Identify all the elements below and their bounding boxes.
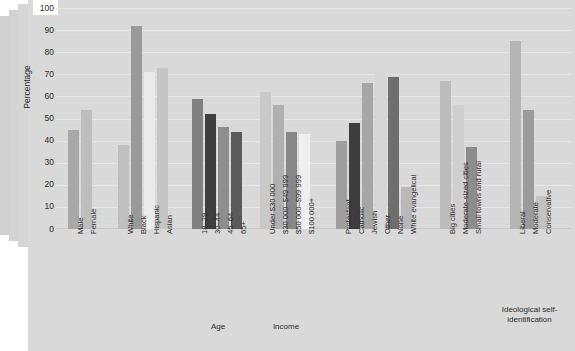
x-axis-tick-label: 30–44 — [214, 213, 222, 234]
x-axis-tick-label: Female — [90, 209, 98, 234]
x-axis-tick-label: Moderate-sized cities — [462, 162, 470, 234]
y-axis: 1009080706050403020100 — [30, 0, 54, 240]
x-axis-tick-label: Small towns and rural — [475, 161, 483, 234]
x-axis-group-label: Income — [241, 322, 331, 332]
x-axis-tick-label: Black — [140, 215, 148, 234]
x-axis-group-label: Ideological self- identification — [485, 305, 575, 325]
x-axis-tick-label: Other — [384, 215, 392, 234]
plot-area — [56, 8, 571, 229]
x-axis-tick-label: 65+ — [240, 221, 248, 234]
gridline-minor — [56, 21, 571, 22]
bar — [375, 72, 386, 229]
bar — [205, 114, 216, 229]
y-axis-tick-label: 30 — [45, 158, 54, 167]
y-axis-tick-label: 20 — [45, 180, 54, 189]
bar — [510, 41, 521, 229]
x-axis-tick-label: None — [397, 216, 405, 234]
x-axis-tick-label: Moderate — [532, 202, 540, 234]
bar — [68, 130, 79, 229]
x-axis-tick-label: Male — [77, 218, 85, 234]
x-axis-tick-label: Catholic — [358, 207, 366, 234]
x-axis-tick-label: $30 000–$49 999 — [282, 175, 290, 234]
bar — [131, 26, 142, 229]
y-axis-tick-label: 80 — [45, 48, 54, 57]
x-axis-tick-label: $100 000+ — [308, 198, 316, 234]
y-axis-tick-label: 90 — [45, 26, 54, 35]
gridline-minor — [56, 17, 571, 18]
y-axis-tick-label: 0 — [49, 225, 54, 234]
x-axis-tick-label: Under $30 000 — [269, 184, 277, 234]
y-axis-tick-label: 70 — [45, 70, 54, 79]
y-axis-tick-label: 40 — [45, 136, 54, 145]
chart-container: 1009080706050403020100 Percentage MaleFe… — [0, 0, 575, 351]
x-axis-tick-label: Asian — [166, 215, 174, 234]
bar — [192, 99, 203, 229]
x-axis-tick-label: Jewish — [371, 211, 379, 234]
y-axis-tick-label: 60 — [45, 92, 54, 101]
x-axis-tick-label: Conservative — [545, 190, 553, 234]
bar — [388, 77, 399, 229]
x-axis-tick-label: Hispanic — [153, 205, 161, 234]
y-axis-tick-label: 10 — [45, 202, 54, 211]
x-axis-tick-label: 45–64 — [227, 213, 235, 234]
y-axis-tick-label: 100 — [40, 4, 54, 13]
x-axis-tick-label: $50 000–$99 999 — [295, 175, 303, 234]
x-axis-tick-label: Protestant — [345, 199, 353, 234]
x-axis-tick-label: 18–29 — [201, 213, 209, 234]
x-axis-tick-label: White evangelical — [410, 174, 418, 234]
x-axis-tick-label: Big cities — [449, 204, 457, 234]
y-axis-tick-label: 50 — [45, 114, 54, 123]
gridline — [56, 8, 571, 9]
gridline-minor — [56, 12, 571, 13]
x-axis-tick-label: Liberal — [519, 211, 527, 234]
y-axis-title: Percentage — [22, 52, 32, 122]
x-axis-tick-label: White — [127, 215, 135, 234]
